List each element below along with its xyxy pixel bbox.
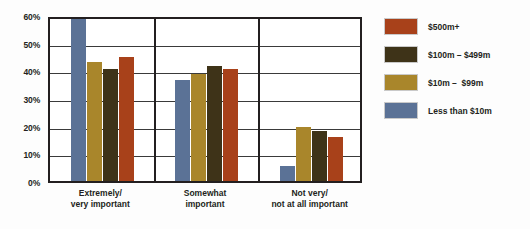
legend-label: $100m – $499m [428,50,490,60]
legend-label: Less than $10m [428,106,492,116]
y-tick-label: 60% [0,12,40,22]
legend-color-swatch [384,46,418,63]
legend: $500m+$100m – $499m$10m – $99mLess than … [384,14,526,126]
y-axis: 60%50%40%30%20%10%0% [0,17,44,183]
bar[interactable] [191,74,206,181]
y-tick-label: 40% [0,67,40,77]
bar-group [50,19,155,181]
y-tick-label: 20% [0,123,40,133]
legend-item[interactable]: $500m+ [384,14,526,39]
y-tick-label: 30% [0,95,40,105]
bar[interactable] [119,57,134,182]
legend-color-swatch [384,102,418,119]
legend-label: $10m – $99m [428,78,483,88]
x-axis-label-line: not at all important [240,199,380,210]
legend-item[interactable]: $100m – $499m [384,42,526,67]
bar[interactable] [87,62,102,181]
plot-area [48,17,362,183]
y-tick-label: 50% [0,40,40,50]
bar-group [155,19,260,181]
bar[interactable] [103,69,118,181]
bar[interactable] [223,69,238,181]
bar[interactable] [71,19,86,181]
chart-container: 60%50%40%30%20%10%0% $500m+$100m – $499m… [0,0,530,229]
legend-item[interactable]: $10m – $99m [384,70,526,95]
legend-color-swatch [384,18,418,35]
x-axis-label-line: Not very/ [240,188,380,199]
legend-item[interactable]: Less than $10m [384,98,526,123]
bar-group [259,19,364,181]
x-axis-label: Not very/not at all important [240,188,380,210]
bar[interactable] [328,137,343,181]
bar[interactable] [207,66,222,181]
bar[interactable] [296,127,311,181]
bar[interactable] [175,80,190,181]
y-tick-label: 0% [0,178,40,188]
legend-label: $500m+ [428,22,459,32]
bar[interactable] [280,166,295,181]
y-tick-label: 10% [0,150,40,160]
legend-color-swatch [384,74,418,91]
bar[interactable] [312,131,327,181]
